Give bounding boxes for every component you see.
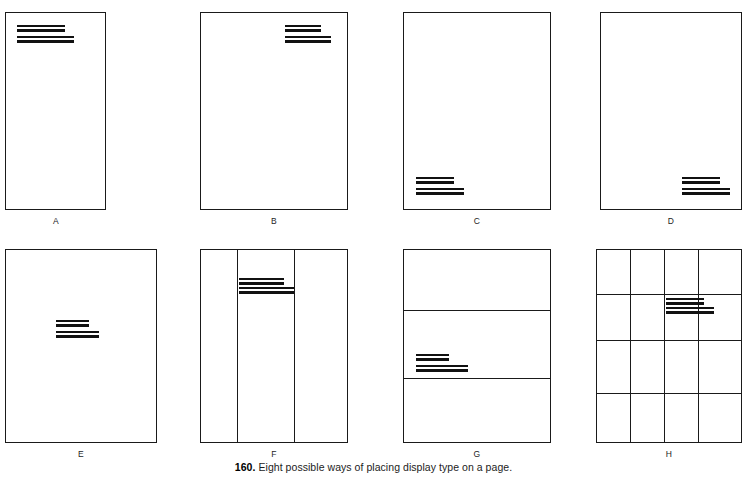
type-rule [416,365,468,367]
type-rule [666,298,704,300]
panel-g-canvas [404,250,550,442]
panel-letter-a: A [0,216,136,226]
row-divider [597,294,741,295]
row-divider [597,340,741,341]
type-rule [682,192,730,195]
display-type-block-d [682,177,730,195]
panel-h-canvas [597,250,741,442]
band-divider [404,378,550,379]
type-rule [17,40,74,43]
type-rule [416,192,464,195]
type-rule [239,291,294,294]
panel-c-canvas [404,13,550,209]
panel-letter-h: H [589,449,747,459]
type-rule [416,358,449,361]
type-rule [239,282,284,285]
type-rule [17,36,74,38]
display-type-block-e [56,320,99,340]
figure-number: 160. [235,461,256,473]
column-divider [698,250,699,442]
display-type-block-f [239,278,294,296]
type-rule [56,320,89,322]
type-rule [416,188,464,190]
type-rule [682,177,720,179]
type-rule [682,188,730,190]
panel-b-canvas [201,13,347,209]
panel-letter-g: G [397,449,557,459]
display-type-block-g [416,354,468,374]
panel-c [403,12,551,210]
column-divider [237,250,238,442]
panel-letter-b: B [194,216,354,226]
type-rule [416,354,449,356]
panel-d-canvas [601,13,741,209]
type-rule [17,25,65,27]
figure-eight-display-type-placements: A B C [0,0,747,482]
column-divider [294,250,295,442]
type-rule [17,29,65,32]
band-divider [404,310,550,311]
panel-f-canvas [201,250,347,442]
type-rule [285,29,321,32]
panel-letter-e: E [1,449,161,459]
column-divider [664,250,665,442]
panel-e [5,249,157,443]
panel-d [600,12,742,210]
type-rule [666,307,714,309]
column-divider [630,250,631,442]
type-rule [666,311,714,314]
row-divider [597,393,741,394]
figure-caption-text: Eight possible ways of placing display t… [258,461,512,473]
type-rule [239,278,284,280]
type-rule [56,335,99,338]
panel-e-canvas [6,250,156,442]
panel-letter-c: C [397,216,557,226]
display-type-block-a [17,25,74,45]
panel-f [200,249,348,443]
type-rule [285,40,331,43]
type-rule [239,287,294,289]
type-rule [56,324,89,327]
panel-b [200,12,348,210]
type-rule [285,25,321,27]
type-rule [666,302,704,305]
panel-a-canvas [6,13,105,209]
panel-letter-f: F [194,449,354,459]
display-type-block-h [666,298,714,316]
type-rule [416,181,454,184]
panel-g [403,249,551,443]
type-rule [416,369,468,372]
panel-a [5,12,106,210]
display-type-block-b [285,25,331,45]
type-rule [285,36,331,38]
figure-caption: 160. Eight possible ways of placing disp… [0,461,747,473]
type-rule [682,181,720,184]
panel-h [596,249,742,443]
panel-letter-d: D [591,216,747,226]
type-rule [416,177,454,179]
display-type-block-c [416,177,464,195]
type-rule [56,331,99,333]
